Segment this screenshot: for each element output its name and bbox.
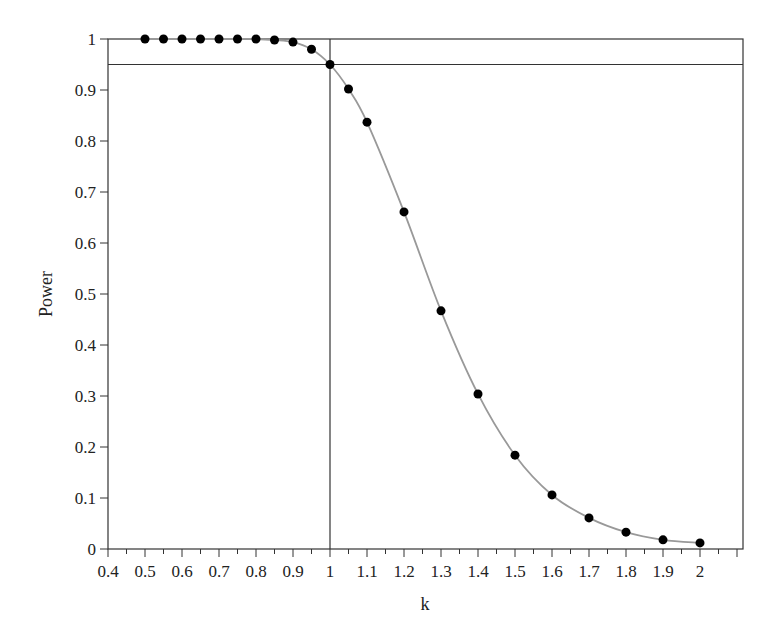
x-axis: 0.40.50.60.70.80.911.11.21.31.41.51.61.7… xyxy=(97,549,737,581)
x-tick-label: 1.6 xyxy=(541,562,562,581)
y-axis-title: Power xyxy=(36,271,56,317)
y-tick-label: 0.1 xyxy=(75,489,96,508)
data-point-marker xyxy=(215,35,224,44)
data-point-marker xyxy=(196,35,205,44)
x-tick-label: 1.4 xyxy=(467,562,489,581)
data-point-marker xyxy=(400,207,409,216)
y-tick-label: 0.8 xyxy=(75,132,96,151)
x-tick-label: 0.9 xyxy=(282,562,303,581)
x-tick-label: 1 xyxy=(326,562,335,581)
y-tick-label: 0.5 xyxy=(75,285,96,304)
x-tick-label: 1.5 xyxy=(504,562,525,581)
data-point-marker xyxy=(585,513,594,522)
data-point-marker xyxy=(363,118,372,127)
x-tick-label: 1.2 xyxy=(393,562,414,581)
data-point-marker xyxy=(474,389,483,398)
plot-border xyxy=(108,39,743,549)
y-tick-label: 0.9 xyxy=(75,81,96,100)
x-tick-label: 1.1 xyxy=(356,562,377,581)
y-tick-label: 0.2 xyxy=(75,438,96,457)
data-point-marker xyxy=(252,35,261,44)
data-point-marker xyxy=(159,35,168,44)
x-tick-label: 0.5 xyxy=(134,562,155,581)
y-tick-label: 0 xyxy=(88,540,97,559)
data-point-marker xyxy=(437,306,446,315)
x-tick-label: 1.9 xyxy=(652,562,673,581)
y-axis: 00.10.20.30.40.50.60.70.80.91 xyxy=(75,30,108,559)
data-series xyxy=(141,35,705,548)
x-tick-label: 0.7 xyxy=(208,562,230,581)
data-point-marker xyxy=(289,38,298,47)
x-tick-label: 1.7 xyxy=(578,562,600,581)
data-point-marker xyxy=(696,538,705,547)
x-tick-label: 1.3 xyxy=(430,562,451,581)
data-point-marker xyxy=(307,45,316,54)
data-point-marker xyxy=(622,528,631,537)
x-axis-title: k xyxy=(421,594,430,614)
data-point-marker xyxy=(270,36,279,45)
plot-frame xyxy=(108,39,743,549)
y-tick-label: 0.4 xyxy=(75,336,97,355)
data-point-marker xyxy=(344,84,353,93)
data-point-marker xyxy=(233,35,242,44)
y-tick-label: 1 xyxy=(88,30,97,49)
power-chart: 0.40.50.60.70.80.911.11.21.31.41.51.61.7… xyxy=(0,0,777,644)
data-point-marker xyxy=(511,451,520,460)
data-point-marker xyxy=(178,35,187,44)
y-tick-label: 0.3 xyxy=(75,387,96,406)
data-point-marker xyxy=(659,535,668,544)
reference-lines xyxy=(108,39,743,549)
x-tick-label: 0.6 xyxy=(171,562,192,581)
data-point-marker xyxy=(326,60,335,69)
x-tick-label: 0.4 xyxy=(97,562,119,581)
x-tick-label: 0.8 xyxy=(245,562,266,581)
y-tick-label: 0.7 xyxy=(75,183,97,202)
x-tick-label: 2 xyxy=(696,562,705,581)
x-tick-label: 1.8 xyxy=(615,562,636,581)
y-tick-label: 0.6 xyxy=(75,234,96,253)
data-point-marker xyxy=(141,35,150,44)
power-curve-line xyxy=(145,39,700,543)
data-point-marker xyxy=(548,490,557,499)
